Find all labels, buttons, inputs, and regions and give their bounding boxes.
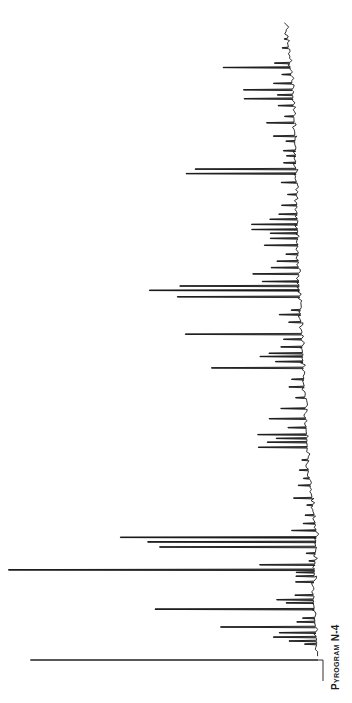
baseline-start-mark <box>30 660 323 681</box>
peak-group <box>9 39 319 660</box>
chromatogram-trace <box>9 23 319 656</box>
injection-mark <box>30 660 323 681</box>
chart-caption: Pyrogram N-4 <box>330 624 341 690</box>
chromatogram-chart <box>0 0 352 703</box>
